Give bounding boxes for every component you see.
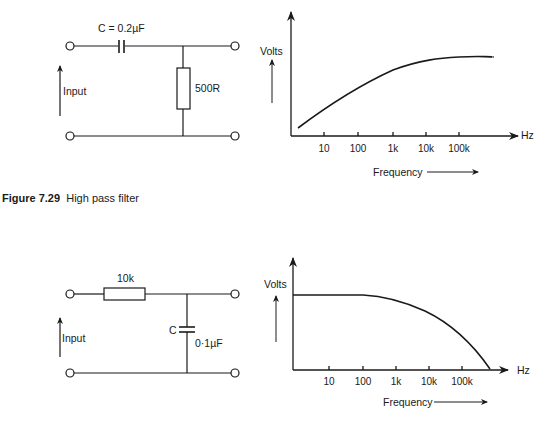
- tick-label: 100: [355, 376, 372, 387]
- output-terminal-top: [231, 42, 239, 50]
- output-terminal-bottom: [231, 132, 239, 140]
- tick-label: 100k: [448, 143, 471, 154]
- tick-label: 1k: [388, 143, 400, 154]
- x-unit-label: Hz: [521, 129, 534, 141]
- response-curve: [293, 295, 490, 369]
- response-curve: [298, 57, 493, 128]
- x-axis-label: Frequency: [373, 166, 423, 178]
- low-pass-circuit: [60, 288, 239, 377]
- input-label: Input: [62, 332, 85, 344]
- figure-caption: Figure 7.29 High pass filter: [2, 192, 139, 204]
- x-unit-label: Hz: [517, 364, 530, 376]
- figure-number: Figure 7.29: [2, 192, 60, 204]
- tick-label: 100k: [451, 376, 474, 387]
- figure-title: High pass filter: [66, 192, 139, 204]
- tick-label: 10: [318, 143, 330, 154]
- x-axis-label: Frequency: [383, 396, 433, 408]
- resistor: [104, 288, 145, 300]
- tick-label: 10: [323, 376, 335, 387]
- capacitor-label: C = 0.2µF: [98, 22, 145, 34]
- y-axis-label: Volts: [264, 278, 287, 290]
- y-axis-label: Volts: [260, 45, 283, 57]
- tick-label: 100: [350, 143, 367, 154]
- tick-label: 10k: [418, 143, 435, 154]
- input-terminal-top: [66, 42, 74, 50]
- resistor-label: 10k: [117, 272, 135, 284]
- figure-canvas: C = 0.2µF 500R Input Volts Hz Frequency …: [0, 0, 546, 426]
- input-terminal-bottom: [66, 132, 74, 140]
- input-label: Input: [63, 85, 86, 97]
- resistor: [177, 68, 190, 109]
- capacitor-label: C: [169, 324, 177, 336]
- capacitor-value: 0·1µF: [195, 337, 223, 349]
- tick-label: 10k: [421, 376, 438, 387]
- resistor-label: 500R: [195, 82, 221, 94]
- tick-label: 1k: [391, 376, 403, 387]
